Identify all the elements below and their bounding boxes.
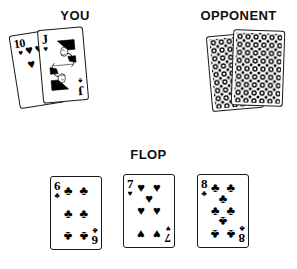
card-back-pattern [234,32,282,104]
card-index-bottom-right: 7 ♥ [165,225,171,245]
flop-card-1: 6 ♣ ♣ ♣ ♣ ♣ ♣ ♣ 6 ♣ [50,176,102,250]
card-pip-field: ♥ ♥ ♥ ♥ ♥ ♥ ♥ [135,182,163,240]
card-rank: J [78,84,85,97]
card-index-bottom-right: 6 ♣ [92,227,98,247]
hearts-icon: ♥ [153,181,161,194]
card-rank: 6 [92,234,98,247]
hearts-icon: ♥ [153,227,161,240]
card-index-top-left: 6 ♣ [54,179,60,199]
card-index-top-left: 8 ♣ [201,177,207,197]
opponent-hole-card-2 [231,29,286,107]
opponent-section-heading: OPPONENT [180,8,297,23]
clubs-icon: ♣ [80,207,89,220]
spades-icon: ♠ [78,77,83,84]
hearts-icon: ♥ [26,57,36,71]
clubs-icon: ♣ [80,230,89,243]
card-index-bottom-right: 8 ♣ [239,225,245,245]
clubs-icon: ♣ [227,228,236,241]
clubs-icon: ♣ [64,183,73,196]
clubs-icon: ♣ [64,230,73,243]
clubs-icon: ♣ [80,183,89,196]
card-rank: 7 [165,232,171,245]
clubs-icon: ♣ [239,225,244,232]
clubs-icon: ♣ [227,180,236,193]
flop-card-2: 7 ♥ ♥ ♥ ♥ ♥ ♥ ♥ ♥ 7 ♥ [123,174,175,248]
hearts-icon: ♥ [137,203,145,216]
hearts-icon: ♥ [145,191,153,204]
clubs-icon: ♣ [54,192,59,199]
card-index-bottom-right: J ♠ [77,77,85,97]
hearts-icon: ♥ [153,203,161,216]
clubs-icon: ♣ [227,203,236,216]
card-rank: 8 [239,232,245,245]
poker-hand-illustration: YOU 10 ♥ ♥ ♥ ♥ J ♥ [0,0,297,269]
clubs-icon: ♣ [92,227,97,234]
card-pip-field: ♣ ♣ ♣ ♣ ♣ ♣ [62,184,90,242]
hearts-icon: ♥ [166,225,171,232]
clubs-icon: ♣ [211,228,220,241]
hearts-icon: ♥ [137,181,145,194]
clubs-icon: ♣ [201,190,206,197]
you-section-heading: YOU [0,8,150,23]
flop-card-3: 8 ♣ ♣ ♣ ♣ ♣ ♣ ♣ ♣ ♣ 8 ♣ [197,174,249,248]
jack-court-figure-art [44,34,81,97]
hearts-icon: ♥ [137,227,145,240]
hearts-icon: ♥ [128,190,133,197]
flop-section-heading: FLOP [0,147,297,162]
card-index-top-left: 7 ♥ [127,177,133,197]
card-pip-field: ♣ ♣ ♣ ♣ ♣ ♣ ♣ ♣ [209,182,237,240]
clubs-icon: ♣ [64,207,73,220]
you-hole-card-2: J ♥ [37,26,89,104]
